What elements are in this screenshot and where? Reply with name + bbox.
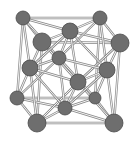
- atom-c-front-top-left: [33, 33, 51, 51]
- atom-f-front: [70, 74, 86, 90]
- atom-f-top: [62, 23, 78, 39]
- atom-c-back-bottom-left: [10, 91, 24, 105]
- bond: [59, 18, 100, 58]
- atom-f-back: [52, 51, 66, 65]
- atom-c-front-bottom-right: [105, 114, 123, 132]
- crystal-lattice-diagram: [0, 0, 136, 142]
- atom-c-back-bottom-right: [89, 92, 101, 104]
- atom-c-front-top-right: [111, 34, 129, 52]
- atom-f-bottom: [58, 101, 72, 115]
- atom-c-back-top-left: [16, 11, 30, 25]
- atom-f-left: [22, 60, 38, 76]
- atom-c-front-bottom-left: [28, 114, 46, 132]
- lattice-canvas: [0, 0, 136, 142]
- bond-core: [59, 18, 100, 58]
- atom-c-back-top-right: [93, 11, 107, 25]
- atom-f-right: [99, 62, 115, 78]
